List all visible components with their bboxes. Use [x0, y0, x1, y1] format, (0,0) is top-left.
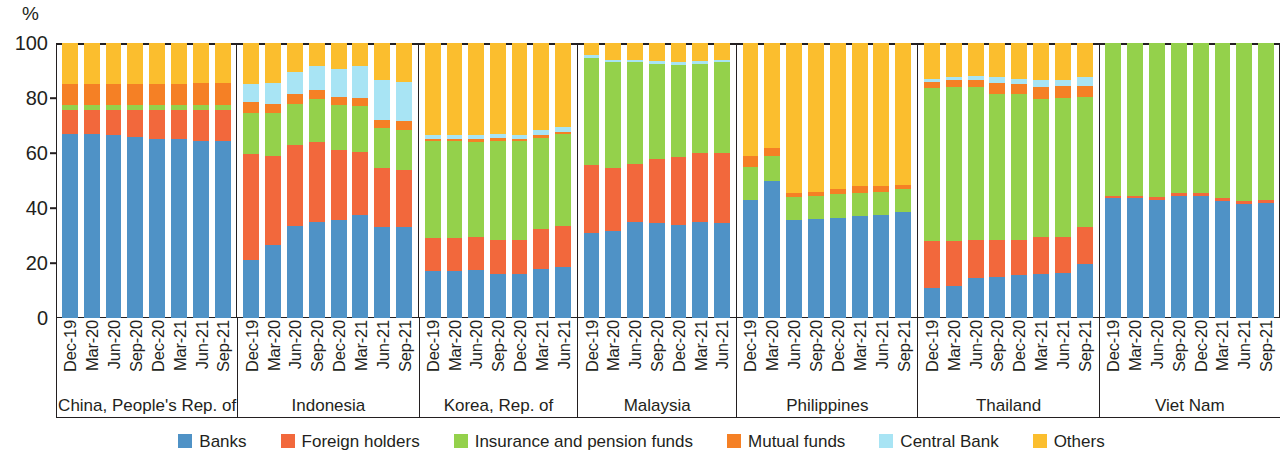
bar-segment: [193, 43, 209, 83]
stacked-bar[interactable]: [468, 43, 484, 318]
bar-segment: [468, 270, 484, 318]
stacked-bar[interactable]: [1149, 43, 1165, 318]
stacked-bar[interactable]: [555, 43, 571, 318]
x-tick-label: Dec-19: [62, 320, 79, 372]
stacked-bar[interactable]: [512, 43, 528, 318]
bar-segment: [374, 168, 390, 227]
stacked-bar[interactable]: [1011, 43, 1027, 318]
bar-segment: [989, 277, 1005, 318]
stacked-bar[interactable]: [193, 43, 209, 318]
bar-segment: [852, 193, 868, 216]
stacked-bar[interactable]: [1055, 43, 1071, 318]
stacked-bar[interactable]: [425, 43, 441, 318]
bar-segment: [374, 128, 390, 168]
stacked-bar[interactable]: [447, 43, 463, 318]
bar-segment: [1033, 87, 1049, 99]
stacked-bar[interactable]: [1258, 43, 1274, 318]
bar-segment: [989, 94, 1005, 240]
stacked-bar[interactable]: [1215, 43, 1231, 318]
stacked-bar[interactable]: [1105, 43, 1121, 318]
stacked-bar[interactable]: [331, 43, 347, 318]
stacked-bar[interactable]: [396, 43, 412, 318]
stacked-bar[interactable]: [352, 43, 368, 318]
bar-segment: [127, 43, 143, 84]
bar-segment: [692, 153, 708, 222]
stacked-bar[interactable]: [743, 43, 759, 318]
bar-segment: [830, 43, 846, 189]
stacked-bar[interactable]: [1127, 43, 1143, 318]
stacked-bar[interactable]: [584, 43, 600, 318]
legend-item[interactable]: Insurance and pension funds: [454, 433, 693, 450]
stacked-bar[interactable]: [830, 43, 846, 318]
x-tick-label: Sep-20: [808, 320, 825, 372]
bar-segment: [584, 165, 600, 232]
stacked-bar[interactable]: [924, 43, 940, 318]
bar-segment: [425, 141, 441, 239]
stacked-bar[interactable]: [895, 43, 911, 318]
bar-segment: [512, 240, 528, 274]
stacked-bar[interactable]: [309, 43, 325, 318]
country-label: Indonesia: [292, 397, 366, 414]
country-label: Malaysia: [624, 397, 691, 414]
stacked-bar[interactable]: [692, 43, 708, 318]
stacked-bar[interactable]: [1171, 43, 1187, 318]
bar-segment: [106, 84, 122, 105]
stacked-bar[interactable]: [714, 43, 730, 318]
stacked-bar[interactable]: [627, 43, 643, 318]
stacked-bar[interactable]: [1236, 43, 1252, 318]
stacked-bar[interactable]: [287, 43, 303, 318]
stacked-bar[interactable]: [649, 43, 665, 318]
legend-item[interactable]: Central Bank: [879, 433, 998, 450]
stacked-bar[interactable]: [106, 43, 122, 318]
bar-segment: [968, 278, 984, 318]
stacked-bar[interactable]: [786, 43, 802, 318]
stacked-bar[interactable]: [968, 43, 984, 318]
stacked-bar[interactable]: [671, 43, 687, 318]
bar-segment: [895, 43, 911, 185]
stacked-bar[interactable]: [149, 43, 165, 318]
stacked-bar[interactable]: [62, 43, 78, 318]
stacked-bar[interactable]: [374, 43, 390, 318]
bar-segment: [1033, 43, 1049, 80]
bar-segment: [1258, 203, 1274, 319]
bar-segment: [1077, 77, 1093, 85]
bar-segment: [512, 141, 528, 240]
stacked-bar[interactable]: [533, 43, 549, 318]
stacked-bar[interactable]: [171, 43, 187, 318]
bar-segment: [447, 238, 463, 271]
bar-segment: [1055, 237, 1071, 273]
stacked-bar[interactable]: [764, 43, 780, 318]
legend-item[interactable]: Foreign holders: [281, 433, 420, 450]
stacked-bar[interactable]: [215, 43, 231, 318]
stacked-bar[interactable]: [808, 43, 824, 318]
bar-segment: [396, 170, 412, 228]
stacked-bar[interactable]: [1077, 43, 1093, 318]
stacked-bar[interactable]: [127, 43, 143, 318]
stacked-bar[interactable]: [1033, 43, 1049, 318]
legend-item[interactable]: Others: [1033, 433, 1105, 450]
stacked-bar[interactable]: [243, 43, 259, 318]
stacked-bar[interactable]: [989, 43, 1005, 318]
bar-segment: [396, 227, 412, 318]
stacked-bar[interactable]: [605, 43, 621, 318]
bar-segment: [171, 110, 187, 139]
country-label: Thailand: [976, 397, 1041, 414]
bar-segment: [265, 83, 281, 104]
stacked-bar[interactable]: [84, 43, 100, 318]
stacked-bar[interactable]: [946, 43, 962, 318]
bar-segment: [743, 43, 759, 156]
stacked-bar[interactable]: [265, 43, 281, 318]
x-tick-label: Sep-21: [896, 320, 913, 372]
bar-segment: [127, 137, 143, 319]
x-tick-label: Mar-21: [172, 320, 189, 371]
legend-item[interactable]: Banks: [178, 433, 246, 450]
legend-item[interactable]: Mutual funds: [727, 433, 845, 450]
stacked-bar[interactable]: [490, 43, 506, 318]
bar-segment: [627, 62, 643, 164]
stacked-bar[interactable]: [852, 43, 868, 318]
country-name-row: China, People's Rep. of: [57, 392, 237, 418]
x-tick-label: Sep-21: [215, 320, 232, 372]
country-axis-panel: Dec-19Mar-20Jun-20Sep-20Dec-20Mar-21Jun-…: [918, 318, 1099, 418]
stacked-bar[interactable]: [1193, 43, 1209, 318]
stacked-bar[interactable]: [873, 43, 889, 318]
